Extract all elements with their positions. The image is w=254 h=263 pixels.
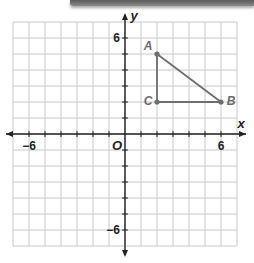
y-axis-arrow-down-icon: [122, 250, 128, 257]
y-tick-label: 6: [113, 31, 120, 45]
x-axis-arrow-right-icon: [239, 131, 246, 137]
point-label-b: B: [227, 94, 236, 108]
x-tick-label: 6: [218, 139, 225, 153]
point-a: [154, 51, 159, 56]
coordinate-plane: −666−6xyOABC: [0, 0, 254, 263]
y-axis-arrow-up-icon: [122, 13, 128, 20]
point-b: [218, 99, 223, 104]
x-axis-label: x: [236, 116, 245, 131]
x-tick-label: −6: [22, 139, 36, 153]
point-c: [154, 99, 159, 104]
point-label-c: C: [144, 94, 153, 108]
origin-label: O: [112, 138, 122, 153]
point-label-a: A: [143, 39, 153, 53]
axes: [6, 13, 246, 257]
labels: −666−6xyOABC: [22, 8, 245, 237]
y-tick-label: −6: [106, 223, 120, 237]
x-axis-arrow-left-icon: [6, 131, 13, 137]
y-axis-label: y: [129, 8, 138, 23]
